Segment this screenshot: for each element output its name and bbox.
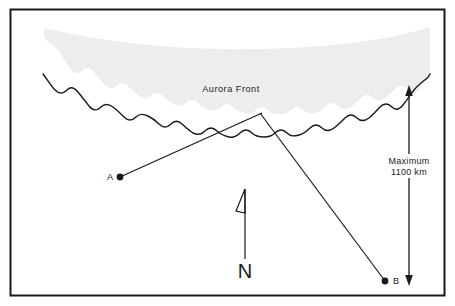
point-a-marker — [117, 174, 124, 181]
point-a-label: A — [107, 172, 114, 182]
scale-label-line2: 1100 km — [391, 167, 427, 177]
point-b-marker — [382, 278, 389, 285]
aurora-front-label: Aurora Front — [202, 84, 260, 94]
point-b-label: B — [393, 276, 399, 286]
scale-label-line1: Maximum — [388, 156, 429, 166]
aurora-front-diagram: Aurora Front A B N Maximum 1100 km — [0, 0, 455, 306]
north-label: N — [238, 260, 252, 282]
